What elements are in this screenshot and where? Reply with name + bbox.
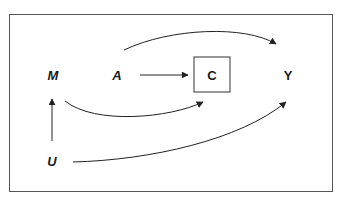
causal-dag: M A C Y U <box>0 0 350 198</box>
edge-M-to-C <box>65 101 203 117</box>
node-U: U <box>47 154 57 169</box>
edge-A-to-Y <box>124 31 276 50</box>
node-Y: Y <box>284 68 293 83</box>
node-M: M <box>48 68 60 83</box>
node-A: A <box>111 68 121 83</box>
node-C: C <box>207 68 217 83</box>
edge-U-to-Y <box>73 102 286 162</box>
